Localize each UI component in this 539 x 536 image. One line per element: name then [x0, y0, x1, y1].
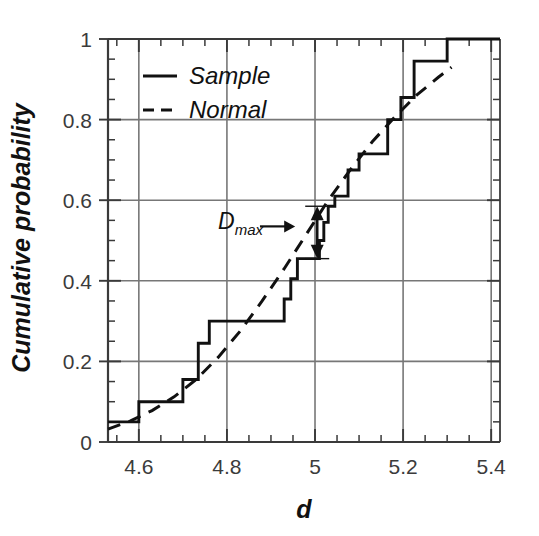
x-tick-label-0: 4.6: [124, 455, 153, 478]
chart-element: D: [218, 208, 235, 234]
y-tick-label-4: 0.8: [63, 109, 92, 132]
x-tick-label-3: 5.2: [388, 455, 417, 478]
legend-label-normal: Normal: [189, 96, 267, 123]
chart-figure: 4.64.855.25.4 00.20.40.60.81 Dmax Sample…: [0, 0, 539, 536]
legend-label-sample: Sample: [189, 62, 270, 89]
y-tick-label-2: 0.4: [63, 270, 93, 293]
y-tick-label-5: 1: [80, 28, 92, 51]
cdf-plot: 4.64.855.25.4 00.20.40.60.81 Dmax Sample…: [0, 0, 539, 536]
y-tick-label-0: 0: [80, 431, 92, 454]
y-axis-title: Cumulative probability: [7, 102, 35, 373]
x-axis-title: d: [296, 495, 312, 523]
x-tick-label-2: 5: [309, 455, 321, 478]
y-tick-label-3: 0.6: [63, 189, 92, 212]
y-tick-label-1: 0.2: [63, 350, 92, 373]
x-tick-label-1: 4.8: [212, 455, 241, 478]
chart-element: max: [235, 221, 264, 238]
x-tick-label-4: 5.4: [477, 455, 507, 478]
